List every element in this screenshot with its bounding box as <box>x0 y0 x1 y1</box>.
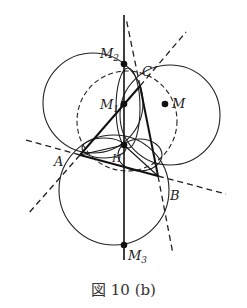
label-c: C <box>142 64 152 79</box>
point-h <box>121 142 128 149</box>
dashed-line-c-n <box>126 18 140 86</box>
label-m2: M2 <box>99 46 119 63</box>
point-m1 <box>121 101 128 108</box>
point-m3 <box>121 242 128 249</box>
label-h: H <box>111 152 122 165</box>
label-m3: M3 <box>127 248 147 265</box>
point-m2 <box>121 61 128 68</box>
figure: M2 C M1 M H A B M3 図 10 (b) <box>0 0 247 308</box>
figure-caption: 図 10 (b) <box>0 278 247 299</box>
dashed-line-a-w <box>26 140 80 155</box>
point-m <box>162 101 169 108</box>
label-a: A <box>53 154 63 169</box>
label-m: M <box>171 96 186 111</box>
circle-m <box>120 65 220 165</box>
dashed-line-b-e <box>158 176 226 194</box>
label-b: B <box>169 188 180 203</box>
geometry-diagram: M2 C M1 M H A B M3 <box>0 0 247 308</box>
